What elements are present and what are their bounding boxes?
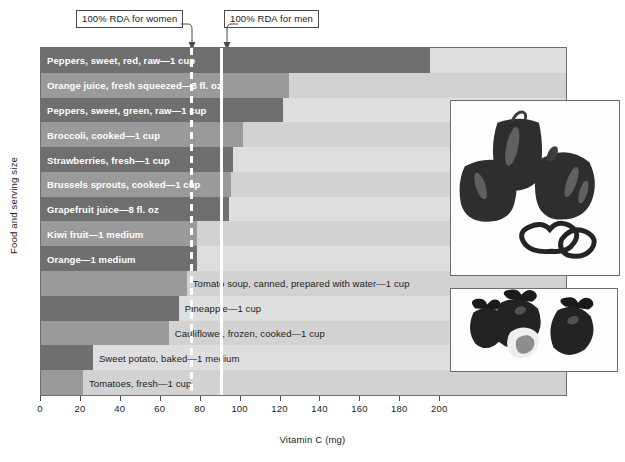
x-tick [40, 396, 41, 401]
x-tick [80, 396, 81, 401]
bar [41, 271, 187, 296]
x-axis-title: Vitamin C (mg) [0, 434, 625, 445]
bar-label: Orange juice, fresh squeezed—8 fl. oz [47, 80, 222, 91]
bar-label: Pineapple—1 cup [185, 303, 262, 314]
bar-label: Peppers, sweet, red, raw—1 cup [47, 55, 195, 66]
x-tick-label: 200 [431, 403, 447, 414]
annotation-rda-women-label: 100% RDA for women [76, 10, 183, 28]
bar-label: Broccoli, cooked—1 cup [47, 129, 160, 140]
x-tick-label: 180 [391, 403, 407, 414]
bar [41, 321, 169, 346]
bar-row: Tomatoes, fresh—1 cup [41, 370, 566, 395]
x-tick [200, 396, 201, 401]
bar [41, 296, 179, 321]
x-tick-label: 80 [194, 403, 205, 414]
bar-label: Strawberries, fresh—1 cup [47, 154, 170, 165]
y-axis-title: Food and serving size [8, 111, 19, 301]
bar-label: Orange—1 medium [47, 253, 136, 264]
strawberries-photo-inset [450, 288, 618, 372]
bar [41, 345, 93, 370]
x-tick-label: 40 [114, 403, 125, 414]
bar-label: Brussels sprouts, cooked—1 cup [47, 179, 200, 190]
x-tick [319, 396, 320, 401]
bar-row: Orange juice, fresh squeezed—8 fl. oz [41, 73, 566, 98]
bar-label: Cauliflower, frozen, cooked—1 cup [175, 327, 325, 338]
bar-label: Kiwi fruit—1 medium [47, 228, 143, 239]
x-tick-label: 120 [271, 403, 287, 414]
x-axis: 020406080100120140160180200 [40, 396, 567, 397]
bar-label: Tomatoes, fresh—1 cup [89, 377, 191, 388]
bar [41, 370, 83, 395]
x-tick-label: 160 [351, 403, 367, 414]
x-tick [280, 396, 281, 401]
x-tick-label: 0 [37, 403, 42, 414]
x-tick [359, 396, 360, 401]
x-tick [240, 396, 241, 401]
rda-women-guide-line [190, 48, 193, 395]
x-tick [439, 396, 440, 401]
bar-label: Tomato soup, canned, prepared with water… [193, 278, 410, 289]
chart-figure: 100% RDA for women 100% RDA for men Pepp… [0, 0, 625, 462]
x-tick-label: 60 [154, 403, 165, 414]
peppers-photo [451, 101, 619, 275]
bar-row: Peppers, sweet, red, raw—1 cup [41, 48, 566, 73]
x-tick-label: 100 [231, 403, 247, 414]
x-tick-label: 140 [311, 403, 327, 414]
peppers-photo-inset [450, 100, 620, 276]
x-tick [160, 396, 161, 401]
strawberries-photo [451, 289, 617, 371]
x-tick-label: 20 [74, 403, 85, 414]
rda-men-guide-line [220, 48, 223, 395]
bar-label: Grapefruit juice—8 fl. oz [47, 204, 159, 215]
bar-label: Peppers, sweet, green, raw—1 cup [47, 104, 206, 115]
x-tick [120, 396, 121, 401]
bar-label: Sweet potato, baked—1 medium [99, 352, 240, 363]
x-tick [399, 396, 400, 401]
